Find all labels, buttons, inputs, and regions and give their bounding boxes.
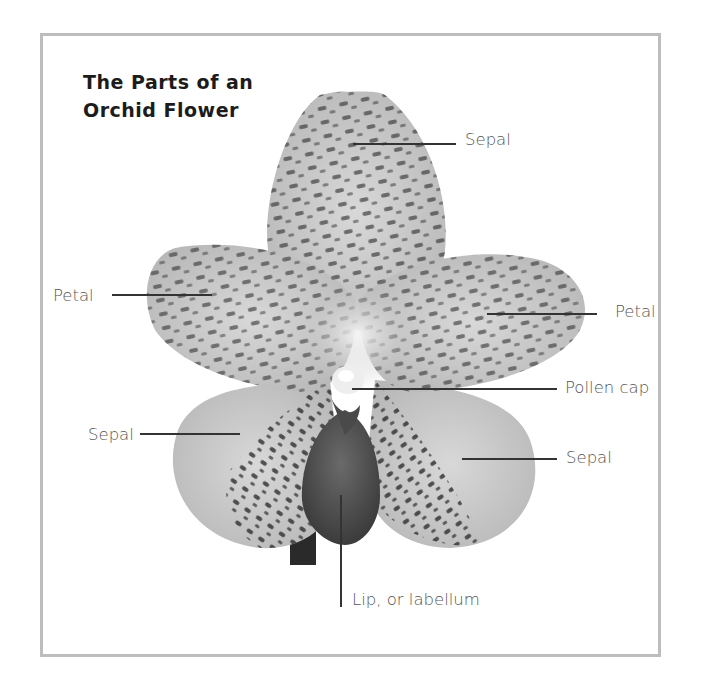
pollen-cap-leader [352,388,557,390]
label-left-petal: Petal [53,286,94,305]
right-petal-leader [487,313,597,315]
left-petal-leader [112,294,212,296]
label-left-sepal: Sepal [88,425,134,444]
label-right-petal: Petal [615,302,656,321]
left-sepal-leader [140,433,240,435]
right-sepal-leader [462,458,557,460]
label-top-sepal: Sepal [465,130,511,149]
lip-leader [340,495,342,607]
label-right-sepal: Sepal [566,448,612,467]
lower-right-sepal [365,380,535,548]
top-sepal-leader [353,143,456,145]
label-pollen-cap: Pollen cap [565,378,649,397]
label-lip: Lip, or labellum [352,590,480,609]
